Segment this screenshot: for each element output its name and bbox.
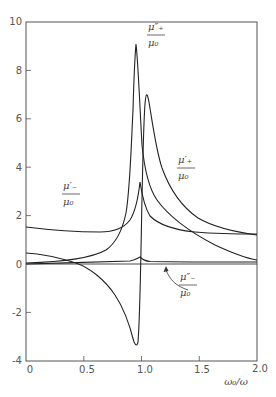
y-axis-labels: 10 8 6 4 2 0 -2 -4	[9, 16, 22, 366]
curves	[26, 44, 257, 345]
x-tick-label: 1.5	[194, 364, 210, 375]
label-numerator: μ′₊	[178, 154, 192, 165]
x-axis-labels: 0 0.5 1.0 1.5 2.0	[27, 363, 268, 375]
label-denominator: μ₀	[180, 287, 191, 298]
x-tick-label: 0	[27, 364, 33, 375]
x-axis-ticks	[84, 356, 200, 361]
label-mu-pp-minus: μ″₋ μ₀	[179, 271, 197, 298]
label-denominator: μ₀	[178, 170, 189, 181]
y-tick-label: -2	[12, 307, 22, 318]
y-tick-label: 0	[16, 259, 22, 270]
x-axis-title: ω₀/ω	[224, 376, 248, 387]
y-tick-label: 4	[16, 162, 22, 173]
y-tick-label: -4	[12, 355, 22, 366]
y-tick-label: 8	[16, 65, 22, 76]
y-axis-ticks	[26, 70, 31, 312]
label-mu-pp-plus: μ″₊ μ₀	[147, 21, 165, 48]
label-numerator: μ′₋	[63, 180, 77, 191]
label-numerator: μ″₊	[148, 21, 164, 32]
y-tick-label: 6	[16, 113, 22, 124]
x-tick-label: 2.0	[252, 363, 268, 374]
label-mu-p-minus: μ′₋ μ₀	[62, 180, 80, 207]
permeability-chart: 10 8 6 4 2 0 -2 -4 0 0.5 1.0 1.5 2.0 ω₀/…	[0, 0, 276, 397]
label-denominator: μ₀	[148, 37, 159, 48]
label-mu-p-plus: μ′₊ μ₀	[177, 154, 195, 181]
label-denominator: μ₀	[63, 196, 74, 207]
x-tick-label: 1.0	[137, 364, 153, 375]
arrowhead-icon	[164, 266, 169, 272]
y-tick-label: 2	[16, 210, 22, 221]
label-numerator: μ″₋	[180, 271, 196, 282]
y-tick-label: 10	[9, 16, 22, 27]
x-tick-label: 0.5	[79, 364, 95, 375]
